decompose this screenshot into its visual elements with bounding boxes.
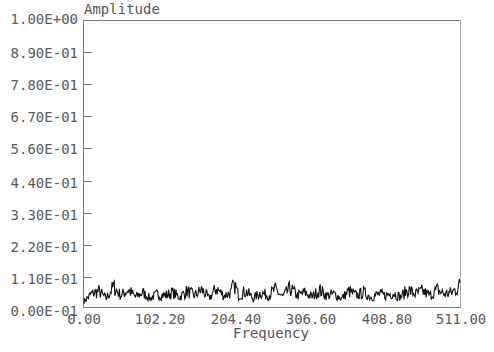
plot-area (0, 0, 494, 352)
plot-frame (83, 20, 461, 308)
y-tick-marks (83, 53, 92, 278)
spectrum-line (84, 279, 460, 304)
